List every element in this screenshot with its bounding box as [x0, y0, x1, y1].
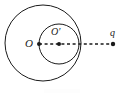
charge-label: q	[110, 28, 115, 38]
charge-dot	[111, 42, 115, 46]
inner-center-label: O′	[51, 27, 60, 37]
inner-center-dot	[57, 42, 61, 46]
outer-center-label: O	[25, 38, 33, 49]
figure-canvas: O O′ q	[0, 0, 124, 98]
diagram-svg	[0, 0, 124, 98]
outer-center-dot	[37, 42, 41, 46]
caption-artifact	[44, 89, 80, 93]
outer-circle	[5, 5, 81, 81]
